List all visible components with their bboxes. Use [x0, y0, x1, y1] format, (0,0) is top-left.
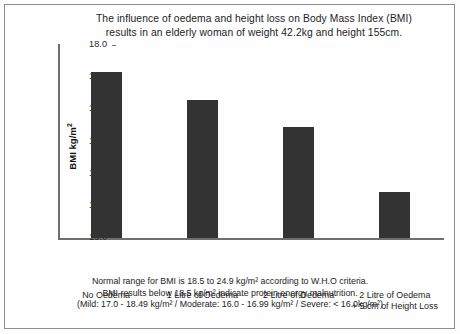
- chart-title-line-2: results in an elderly woman of weight 42…: [56, 26, 452, 40]
- plot-area: BMI kg/m2 18.017.517.016.516.015.515.0 N…: [58, 45, 443, 238]
- y-tick-mark: [112, 45, 116, 46]
- bar: [187, 100, 218, 238]
- chart-figure: The influence of oedema and height loss …: [0, 0, 460, 334]
- chart-title-line-1: The influence of oedema and height loss …: [56, 12, 452, 26]
- footnote-line-1: Normal range for BMI is 18.5 to 24.9 kg/…: [16, 276, 444, 288]
- footnote-line-3: (Mild: 17.0 - 18.49 kg/m² / Moderate: 16…: [16, 299, 444, 311]
- y-tick-label: 18.0: [89, 39, 107, 49]
- y-axis-label: BMI kg/m2: [67, 123, 78, 170]
- chart-title: The influence of oedema and height loss …: [56, 12, 452, 40]
- y-tick-mark: [112, 238, 116, 239]
- bar: [283, 127, 314, 238]
- chart-footnote: Normal range for BMI is 18.5 to 24.9 kg/…: [16, 276, 444, 311]
- bar: [91, 72, 122, 238]
- footnote-line-2: BMI results below 18.5 kg/m² indicate pr…: [16, 288, 444, 300]
- bar: [379, 192, 410, 238]
